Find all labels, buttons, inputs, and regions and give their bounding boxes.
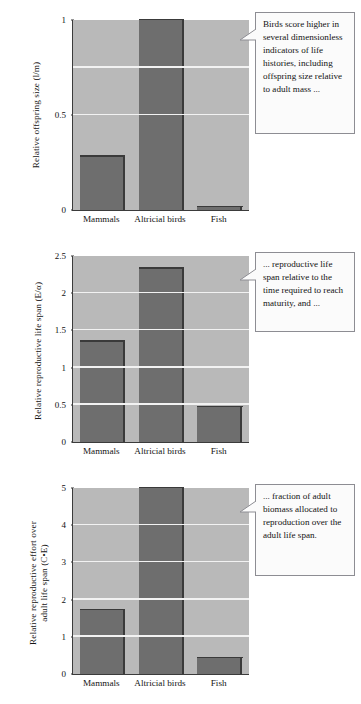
annotation-callout: ... fraction of adult biomass allocated … bbox=[255, 484, 355, 576]
bar-altricial-birds bbox=[139, 20, 184, 210]
y-tick-label: 2 bbox=[62, 595, 71, 605]
bar-group bbox=[73, 256, 249, 442]
y-axis-ticks: 00.51 bbox=[40, 20, 70, 210]
bar-group bbox=[73, 488, 249, 674]
y-tick-label: 0.5 bbox=[55, 400, 70, 410]
bar-fish bbox=[197, 658, 242, 674]
bar-group bbox=[73, 20, 249, 210]
callout-text: Birds score higher in several dimensionl… bbox=[263, 19, 343, 94]
callout-pointer-icon bbox=[239, 27, 257, 45]
chart-panel-offspring-size: Relative offspring size (l/m) 00.51 Mamm… bbox=[0, 2, 361, 238]
y-tick-label: 0 bbox=[62, 205, 71, 215]
gridline bbox=[73, 561, 249, 562]
gridline bbox=[73, 66, 249, 67]
gridline bbox=[73, 329, 249, 330]
chart-panel-reproductive-effort: Relative reproductive effort over adult … bbox=[0, 470, 361, 704]
x-axis-labels: MammalsAltricial birdsFish bbox=[72, 214, 248, 228]
y-tick-label: 2 bbox=[62, 288, 71, 298]
bar-mammals bbox=[80, 157, 125, 210]
annotation-callout: ... reproductive life span relative to t… bbox=[255, 252, 355, 332]
y-tick-label: 1 bbox=[62, 363, 71, 373]
plot-area bbox=[72, 488, 249, 675]
gridline bbox=[73, 114, 249, 115]
figure-page: Relative offspring size (l/m) 00.51 Mamm… bbox=[0, 0, 361, 704]
gridline bbox=[73, 403, 249, 404]
x-axis-labels: MammalsAltricial birdsFish bbox=[72, 678, 248, 692]
callout-text: ... fraction of adult biomass allocated … bbox=[263, 491, 341, 540]
bar-altricial-birds bbox=[139, 269, 184, 442]
gridline bbox=[73, 598, 249, 599]
callout-pointer-icon bbox=[239, 267, 257, 285]
plot-area bbox=[72, 256, 249, 443]
y-tick-label: 1 bbox=[62, 632, 71, 642]
x-tick-label-altricial-birds: Altricial birds bbox=[134, 446, 185, 456]
x-tick-label-fish: Fish bbox=[211, 214, 227, 224]
y-tick-label: 1.5 bbox=[55, 325, 70, 335]
callout-pointer-icon bbox=[239, 499, 257, 517]
plot-area bbox=[72, 20, 249, 211]
x-tick-label-mammals: Mammals bbox=[83, 678, 120, 688]
y-tick-label: 0.5 bbox=[55, 110, 70, 120]
x-tick-label-altricial-birds: Altricial birds bbox=[134, 214, 185, 224]
x-tick-label-mammals: Mammals bbox=[83, 446, 120, 456]
y-tick-label: 4 bbox=[62, 520, 71, 530]
chart-panel-reproductive-life-span: Relative reproductive life span (E/α) 00… bbox=[0, 236, 361, 472]
y-tick-label: 2.5 bbox=[55, 251, 70, 261]
x-axis-labels: MammalsAltricial birdsFish bbox=[72, 446, 248, 460]
callout-text: ... reproductive life span relative to t… bbox=[263, 259, 343, 308]
bar-altricial-birds bbox=[139, 488, 184, 674]
y-tick-label: 0 bbox=[62, 437, 71, 447]
y-tick-label: 0 bbox=[62, 669, 71, 679]
annotation-callout: Birds score higher in several dimensionl… bbox=[255, 12, 355, 134]
x-tick-label-altricial-birds: Altricial birds bbox=[134, 678, 185, 688]
gridline bbox=[73, 292, 249, 293]
bar-fish bbox=[197, 407, 242, 442]
gridline bbox=[73, 366, 249, 367]
gridline bbox=[73, 524, 249, 525]
x-tick-label-fish: Fish bbox=[211, 446, 227, 456]
bar-mammals bbox=[80, 342, 125, 442]
x-tick-label-mammals: Mammals bbox=[83, 214, 120, 224]
y-axis-ticks: 012345 bbox=[40, 488, 70, 674]
y-axis-ticks: 00.511.522.5 bbox=[40, 256, 70, 442]
y-tick-label: 3 bbox=[62, 557, 71, 567]
bar-fish bbox=[197, 207, 242, 210]
gridline bbox=[73, 635, 249, 636]
bar-mammals bbox=[80, 610, 125, 674]
y-tick-label: 1 bbox=[62, 15, 71, 25]
x-tick-label-fish: Fish bbox=[211, 678, 227, 688]
y-tick-label: 5 bbox=[62, 483, 71, 493]
